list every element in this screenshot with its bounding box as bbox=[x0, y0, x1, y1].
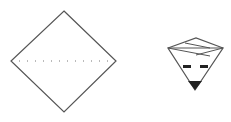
folded-square-figure bbox=[11, 11, 116, 112]
nose-tip bbox=[188, 81, 202, 90]
folded-face-figure bbox=[168, 38, 223, 90]
crown-top bbox=[168, 38, 223, 48]
crown-fold-1 bbox=[168, 48, 210, 56]
crown-fold-3 bbox=[185, 43, 210, 48]
diamond-outline bbox=[11, 11, 116, 112]
left-eye bbox=[183, 65, 191, 68]
origami-diagram bbox=[0, 0, 231, 122]
right-eye bbox=[200, 65, 208, 68]
